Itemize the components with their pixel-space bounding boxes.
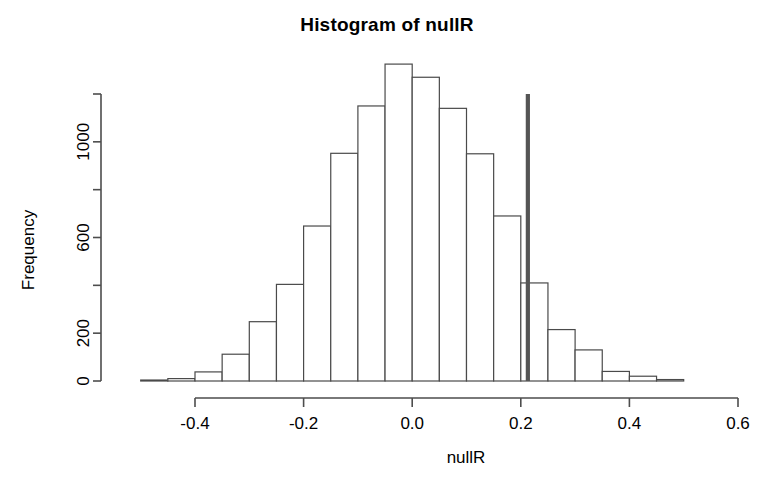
x-axis-tick-label: -0.2 xyxy=(289,414,318,433)
histogram-bar xyxy=(331,153,358,381)
x-axis-tick-label: 0.0 xyxy=(400,414,424,433)
histogram-bar xyxy=(521,283,548,381)
y-axis-tick-label: 600 xyxy=(74,223,93,251)
x-axis-tick-label: 0.6 xyxy=(726,414,750,433)
histogram-bar xyxy=(439,108,466,381)
x-axis-tick-label: 0.2 xyxy=(509,414,533,433)
histogram-bar xyxy=(168,379,195,381)
histogram-bar xyxy=(494,216,521,381)
histogram-bar xyxy=(467,154,494,381)
histogram-bar xyxy=(385,64,412,381)
y-axis-tick-label: 1000 xyxy=(74,123,93,161)
histogram-svg: 02006001000 -0.4-0.20.00.20.40.6 Frequen… xyxy=(0,0,774,485)
histogram-bar xyxy=(548,330,575,381)
histogram-bar xyxy=(249,322,276,381)
histogram-bar xyxy=(358,106,385,381)
histogram-bar xyxy=(222,354,249,381)
histogram-bar xyxy=(602,371,629,381)
histogram-bar xyxy=(276,284,303,381)
histogram-bar xyxy=(657,380,684,381)
histogram-plot-root: Histogram of nullR 02006001000 -0.4-0.20… xyxy=(0,0,774,485)
histogram-bar xyxy=(575,350,602,381)
histogram-bar xyxy=(304,226,331,381)
histogram-bars xyxy=(141,64,684,381)
x-axis: -0.4-0.20.00.20.40.6 xyxy=(180,398,749,433)
y-axis-tick-label: 200 xyxy=(74,319,93,347)
x-axis-label: nullR xyxy=(447,448,486,467)
histogram-bar xyxy=(412,77,439,381)
histogram-bar xyxy=(629,376,656,381)
x-axis-tick-label: -0.4 xyxy=(180,414,209,433)
histogram-bar xyxy=(141,380,168,381)
y-axis-tick-label: 0 xyxy=(74,376,93,385)
y-axis: 02006001000 xyxy=(74,94,101,386)
y-axis-label: Frequency xyxy=(19,209,38,290)
histogram-bar xyxy=(195,372,222,381)
x-axis-tick-label: 0.4 xyxy=(618,414,642,433)
